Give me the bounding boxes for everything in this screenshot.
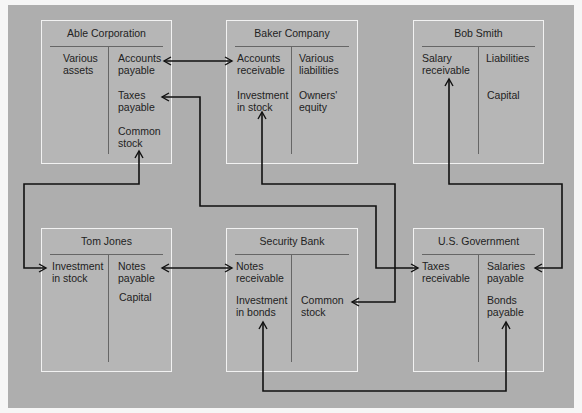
arrow-common-stock-investment xyxy=(24,151,139,268)
arrow-salary-receivable-payable xyxy=(449,79,562,268)
arrow-investment-common-stock xyxy=(262,112,395,302)
connector-arrows xyxy=(0,0,582,413)
arrow-taxes-payable-receivable xyxy=(162,97,418,268)
arrow-bonds-investment-payable xyxy=(263,322,506,391)
